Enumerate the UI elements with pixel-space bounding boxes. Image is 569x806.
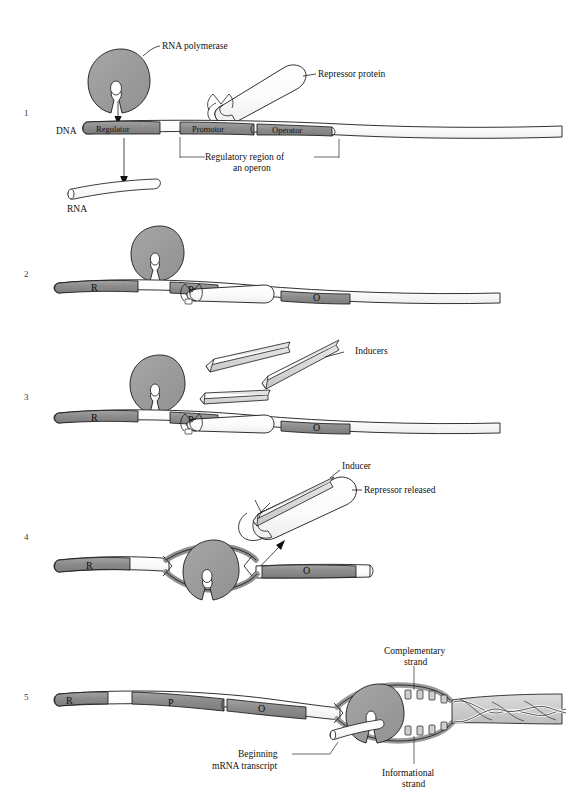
label-repressor-released: Repressor released — [364, 485, 436, 495]
label-rna-polymerase: RNA polymerase — [162, 41, 228, 51]
segment-label-regulator-4: R — [86, 560, 93, 571]
segment-regulator-5 — [54, 692, 108, 706]
segment-label-operator: Operator — [272, 125, 302, 135]
page-background — [0, 0, 569, 806]
segment-label-operator-5: O — [258, 703, 265, 714]
label-repressor-protein: Repressor protein — [318, 69, 386, 79]
segment-label-promotor-5: P — [168, 697, 174, 708]
label-complementary-strand-line1: Complementary — [384, 646, 445, 656]
label-transcript-line2: mRNA transcript — [212, 761, 278, 771]
label-informational-strand-line2: strand — [402, 779, 425, 789]
label-informational-strand-line1: Informational — [382, 768, 435, 778]
segment-label-regulator: Regulator — [96, 124, 130, 134]
label-transcript-line1: Beginning — [238, 749, 278, 759]
segment-label-operator-3: O — [313, 422, 320, 433]
rna-polymerase-icon-2 — [131, 226, 184, 281]
operon-regulation-diagram: 1 RNA polymerase Repressor protein — [0, 0, 569, 806]
segment-label-regulator-3: R — [91, 412, 98, 423]
segment-label-operator-4: O — [303, 565, 310, 576]
double-helix-twisted — [452, 694, 566, 724]
label-complementary-strand-line2: strand — [404, 657, 427, 667]
panel-number-3: 3 — [24, 392, 29, 402]
panel-number-2: 2 — [24, 269, 29, 279]
panel-number-4: 4 — [24, 532, 29, 542]
label-regulatory-region-line1: Regulatory region of — [205, 152, 285, 162]
label-inducer: Inducer — [342, 461, 372, 471]
segment-label-operator-2: O — [313, 292, 320, 303]
label-rna: RNA — [67, 204, 87, 214]
label-inducers: Inducers — [355, 346, 388, 356]
segment-label-regulator-5: R — [66, 695, 73, 706]
label-regulatory-region-line2: an operon — [233, 163, 271, 173]
segment-label-promotor-2: P — [188, 284, 194, 295]
panel-number-1: 1 — [24, 108, 29, 118]
panel-number-5: 5 — [24, 692, 29, 702]
segment-label-promotor-3: P — [188, 414, 194, 425]
label-dna: DNA — [56, 126, 77, 136]
segment-label-promotor: Promotor — [192, 124, 224, 134]
segment-label-regulator-2: R — [91, 282, 98, 293]
